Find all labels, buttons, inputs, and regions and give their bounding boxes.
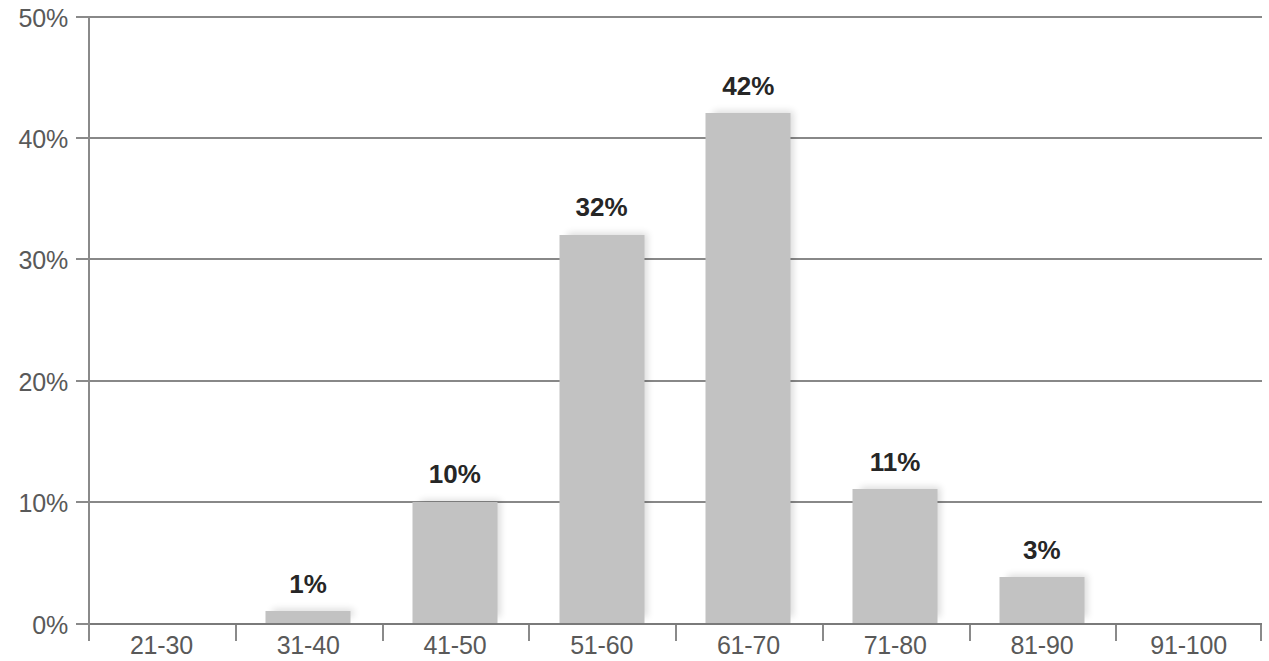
y-axis-label-0: 0% <box>0 613 68 638</box>
y-axis-label-10: 10% <box>0 491 68 516</box>
bar-31-40[interactable] <box>266 611 351 623</box>
bar-slot-61-70: 42% <box>675 16 822 623</box>
bar-81-90[interactable] <box>999 577 1084 623</box>
bar-slot-31-40: 1% <box>235 16 382 623</box>
bar-51-60[interactable] <box>559 235 644 624</box>
x-axis-label-61-70: 61-70 <box>675 633 822 658</box>
bar-71-80[interactable] <box>853 489 938 623</box>
bar-value-81-90: 3% <box>1023 537 1061 563</box>
bar-value-51-60: 32% <box>576 194 628 220</box>
bar-value-31-40: 1% <box>289 571 327 597</box>
bar-slot-81-90: 3% <box>969 16 1116 623</box>
x-axis-label-91-100: 91-100 <box>1115 633 1262 658</box>
y-axis-label-20: 20% <box>0 370 68 395</box>
bar-chart: 50% 40% 30% 20% 10% 0% 1% 10% 32% 42% 11… <box>0 0 1269 661</box>
x-axis-label-51-60: 51-60 <box>528 633 675 658</box>
x-axis-label-31-40: 31-40 <box>235 633 382 658</box>
bar-slot-21-30 <box>88 16 235 623</box>
bar-value-41-50: 10% <box>429 461 481 487</box>
bar-value-61-70: 42% <box>722 73 774 99</box>
x-axis-label-41-50: 41-50 <box>382 633 529 658</box>
plot-area: 1% 10% 32% 42% 11% 3% <box>88 16 1262 623</box>
y-axis-label-40: 40% <box>0 127 68 152</box>
x-axis-label-21-30: 21-30 <box>88 633 235 658</box>
y-axis-label-50: 50% <box>0 6 68 31</box>
bar-slot-91-100 <box>1115 16 1262 623</box>
bar-slot-41-50: 10% <box>382 16 529 623</box>
bar-41-50[interactable] <box>412 502 497 623</box>
bar-61-70[interactable] <box>706 113 791 623</box>
bar-slot-71-80: 11% <box>822 16 969 623</box>
y-axis-label-30: 30% <box>0 248 68 273</box>
x-axis-label-81-90: 81-90 <box>969 633 1116 658</box>
bar-value-71-80: 11% <box>870 449 921 475</box>
x-axis-label-71-80: 71-80 <box>822 633 969 658</box>
bar-slot-51-60: 32% <box>528 16 675 623</box>
